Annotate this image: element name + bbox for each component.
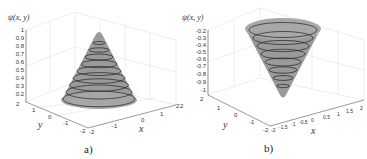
- svg-text:-2: -2: [271, 127, 276, 133]
- svg-text:-0.4: -0.4: [196, 42, 207, 48]
- caption-a: a): [84, 143, 93, 156]
- svg-text:-1.5: -1.5: [279, 124, 288, 130]
- z-axis-label-a: ψ(x, y): [8, 13, 30, 22]
- cone-surface-plot-b: ψ(x, y) -0.2 -0.3 -0.4 -0.5 -0.6 -0.7 -0…: [180, 0, 367, 159]
- svg-text:0.7: 0.7: [16, 51, 25, 57]
- svg-text:1: 1: [160, 111, 164, 117]
- svg-text:0.5: 0.5: [323, 114, 330, 120]
- svg-text:-0.9: -0.9: [196, 79, 207, 85]
- svg-text:1: 1: [337, 111, 340, 117]
- svg-text:0.9: 0.9: [16, 35, 25, 41]
- svg-text:-0.5: -0.5: [299, 119, 308, 125]
- cone-surface-plot-a: ψ(x, y) 1 0.9 0.8 0.7 0.6 0.5 0.4 0.3 0.…: [0, 0, 180, 159]
- svg-text:0: 0: [311, 117, 314, 123]
- y-ticks-b: 2 1 0 -1 -2: [200, 96, 269, 133]
- y-axis-label-b: y: [222, 119, 228, 130]
- svg-text:-0.8: -0.8: [196, 71, 207, 77]
- svg-text:0: 0: [48, 114, 52, 120]
- svg-text:1: 1: [32, 107, 36, 113]
- x-axis-label-a: x: [138, 123, 144, 134]
- z-ticks-b: -0.2 -0.3 -0.4 -0.5 -0.6 -0.7 -0.8 -0.9 …: [196, 28, 207, 93]
- svg-text:0.6: 0.6: [16, 59, 25, 65]
- z-axis-label-b: ψ(x, y): [182, 13, 204, 22]
- svg-text:-1: -1: [63, 120, 69, 126]
- svg-text:-1: -1: [112, 123, 118, 129]
- svg-text:-1: -1: [201, 87, 207, 93]
- x-axis-label-b: x: [310, 125, 316, 136]
- svg-text:-0.7: -0.7: [196, 63, 207, 69]
- svg-text:-0.3: -0.3: [196, 35, 207, 41]
- svg-text:-2: -2: [263, 127, 269, 133]
- chart-panel-a: ψ(x, y) 1 0.9 0.8 0.7 0.6 0.5 0.4 0.3 0.…: [0, 0, 180, 159]
- svg-text:-2: -2: [80, 128, 86, 134]
- z-ticks-a: 1 0.9 0.8 0.7 0.6 0.5 0.4 0.3 0.2: [16, 27, 25, 97]
- svg-text:1: 1: [21, 27, 25, 33]
- svg-text:-0.2: -0.2: [196, 28, 207, 34]
- svg-text:1.5: 1.5: [346, 108, 353, 114]
- svg-text:0.2: 0.2: [16, 91, 25, 97]
- svg-text:0: 0: [234, 112, 238, 118]
- svg-text:-0.6: -0.6: [196, 56, 207, 62]
- svg-text:0.8: 0.8: [16, 43, 25, 49]
- svg-text:-1: -1: [249, 119, 255, 125]
- svg-text:0.3: 0.3: [16, 83, 25, 89]
- svg-text:0.5: 0.5: [16, 67, 25, 73]
- chart-panel-b: ψ(x, y) -0.2 -0.3 -0.4 -0.5 -0.6 -0.7 -0…: [180, 0, 367, 159]
- left-edge-tick: 2: [180, 103, 184, 109]
- svg-text:1: 1: [217, 105, 221, 111]
- svg-text:-2: -2: [89, 129, 95, 135]
- svg-text:2: 2: [16, 101, 20, 107]
- caption-b: b): [264, 142, 274, 155]
- x-ticks-b: -2 -1.5 -1 -0.5 0 0.5 1 1.5 2: [271, 105, 363, 133]
- svg-text:-0.5: -0.5: [196, 49, 207, 55]
- svg-text:-1: -1: [291, 121, 296, 127]
- svg-text:0.4: 0.4: [16, 75, 25, 81]
- y-axis-label-a: y: [37, 119, 43, 130]
- svg-text:2: 2: [360, 105, 363, 111]
- svg-text:2: 2: [200, 96, 204, 102]
